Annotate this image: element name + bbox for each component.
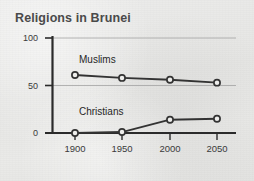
series-label-christians: Christians bbox=[79, 106, 123, 117]
series-muslims bbox=[72, 72, 220, 86]
data-point-christians-2000 bbox=[167, 117, 173, 123]
y-tick-label-0: 0 bbox=[16, 128, 38, 138]
x-tick-label-1950: 1950 bbox=[111, 143, 132, 154]
data-point-muslims-2000 bbox=[167, 77, 173, 83]
y-tick-label-50: 50 bbox=[16, 81, 38, 91]
x-axis-ticks bbox=[75, 133, 217, 140]
data-point-christians-1900 bbox=[72, 130, 78, 136]
x-tick-label-1900: 1900 bbox=[64, 143, 85, 154]
series-label-muslims: Muslims bbox=[79, 54, 116, 65]
y-tick-label-100: 100 bbox=[16, 33, 38, 43]
data-point-muslims-1900 bbox=[72, 72, 78, 78]
x-tick-label-2050: 2050 bbox=[206, 143, 227, 154]
series-line-muslims bbox=[75, 75, 217, 83]
series-line-christians bbox=[75, 119, 217, 133]
x-tick-label-2000: 2000 bbox=[159, 143, 180, 154]
data-point-muslims-1950 bbox=[119, 75, 125, 81]
data-series-layer bbox=[72, 72, 220, 136]
data-point-christians-2050 bbox=[214, 116, 220, 122]
data-point-muslims-2050 bbox=[214, 80, 220, 86]
chart-figure: Religions in Brunei 100 50 0 1900 1950 bbox=[0, 0, 254, 181]
data-point-christians-1950 bbox=[119, 129, 125, 135]
